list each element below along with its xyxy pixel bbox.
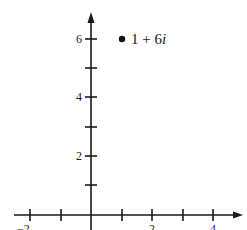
x-axis-arrow-icon xyxy=(233,212,243,219)
point-annotation-imag-unit: i xyxy=(162,31,166,47)
y-axis-arrow-icon xyxy=(88,12,95,23)
x-tick-label-neg2: −2 xyxy=(17,223,30,230)
y-tick-label-2: 2 xyxy=(76,150,82,162)
x-tick-label-2: 2 xyxy=(149,223,155,230)
x-tick-label-4: 4 xyxy=(210,223,216,230)
point-annotation-real: 1 + 6 xyxy=(131,31,162,47)
data-point-1-plus-6i xyxy=(119,36,125,42)
y-tick-label-4: 4 xyxy=(76,91,82,103)
complex-plane-plot xyxy=(0,0,247,230)
y-tick-label-6: 6 xyxy=(76,33,82,45)
point-annotation: 1 + 6i xyxy=(131,32,166,47)
